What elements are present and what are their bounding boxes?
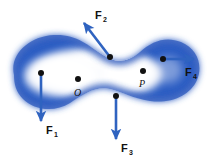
f4-application-point: [160, 56, 166, 62]
f2-application-point: [107, 54, 113, 60]
f3-subscript: 3: [129, 149, 133, 156]
point-p-label: P: [138, 78, 145, 89]
point-o: O: [74, 76, 81, 98]
point-o-dot: [75, 76, 81, 82]
f3-application-point: [113, 93, 119, 99]
f4-label: F: [185, 66, 192, 78]
force-diagram-figure: F 1 F 2 F 3 F 4: [0, 0, 215, 157]
force-vector-f3[interactable]: F 3: [113, 93, 133, 156]
blob-highlight-right-lobe: [154, 57, 182, 83]
point-o-label: O: [74, 87, 81, 98]
f2-subscript: 2: [103, 16, 107, 23]
f1-subscript: 1: [54, 131, 58, 138]
f3-label: F: [121, 142, 128, 154]
point-p-dot: [140, 68, 146, 74]
f1-application-point: [38, 70, 44, 76]
f2-label: F: [95, 9, 102, 21]
f4-subscript: 4: [193, 73, 197, 80]
f1-label: F: [46, 124, 53, 136]
force-diagram-canvas: F 1 F 2 F 3 F 4: [0, 0, 215, 157]
